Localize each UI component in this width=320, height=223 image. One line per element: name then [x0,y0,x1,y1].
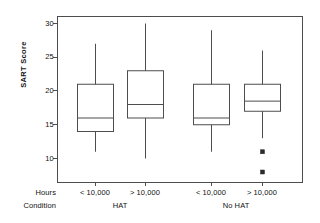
boxplot-figure: SART Score 30 25 20 15 10 Hours Conditio… [0,0,320,223]
box-rect [78,84,114,131]
box-group-3 [194,30,230,152]
box-group-1 [78,44,114,152]
outlier-marker-2 [261,170,265,174]
boxplot-canvas [0,0,320,223]
plot-frame [58,17,303,183]
outlier-marker-1 [261,150,265,154]
box-rect [245,84,281,111]
box-group-2 [128,24,164,159]
box-rect [128,71,164,118]
box-series [78,24,281,175]
box-group-4 [245,51,281,175]
y-axis-ticks [53,24,58,159]
box-rect [194,84,230,125]
x-axis-ticks [96,183,263,187]
